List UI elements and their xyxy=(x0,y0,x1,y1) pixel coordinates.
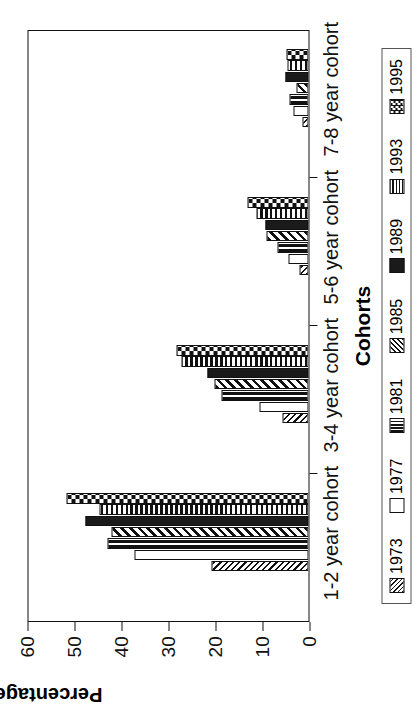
bar-1977-2 xyxy=(259,402,308,413)
legend-label: 1989 xyxy=(387,219,405,255)
legend-swatch-icon-1973 xyxy=(389,578,404,593)
bar-1981-3 xyxy=(277,242,308,253)
y-axis-tick xyxy=(262,622,263,631)
bar-1993-4 xyxy=(287,60,308,71)
bar-1985-4 xyxy=(296,83,308,94)
legend: 1973197719811985198919931995 xyxy=(381,48,411,604)
category-label-3: 5-6 year cohort xyxy=(319,170,342,305)
bar-1995-1 xyxy=(66,493,308,504)
bar-1973-4 xyxy=(302,117,308,128)
legend-item-1977[interactable]: 1977 xyxy=(387,459,405,514)
bar-1973-3 xyxy=(299,265,308,276)
bar-1993-1 xyxy=(99,504,308,515)
bar-1989-4 xyxy=(285,72,308,83)
y-axis-tick-label: 30 xyxy=(157,636,179,658)
bar-1989-2 xyxy=(207,368,308,379)
y-axis-title: Percentage xyxy=(0,683,168,706)
y-axis-tick-label: 40 xyxy=(110,636,132,658)
legend-swatch-icon-1985 xyxy=(389,338,404,353)
bar-1985-3 xyxy=(266,231,308,242)
legend-swatch-icon-1981 xyxy=(389,418,404,433)
y-axis-tick xyxy=(27,622,28,631)
y-axis-tick xyxy=(215,622,216,631)
bar-1989-3 xyxy=(265,220,308,231)
bar-1977-4 xyxy=(293,106,308,117)
y-axis-tick-label: 0 xyxy=(298,636,320,647)
bar-1993-3 xyxy=(256,208,308,219)
plot-area xyxy=(27,30,309,622)
legend-label: 1993 xyxy=(387,139,405,175)
legend-label: 1977 xyxy=(387,459,405,495)
legend-item-1995[interactable]: 1995 xyxy=(387,59,405,114)
y-axis-tick xyxy=(121,622,122,631)
bar-1989-1 xyxy=(85,516,308,527)
category-separator xyxy=(309,177,317,178)
category-label-1: 1-2 year cohort xyxy=(319,466,342,601)
legend-swatch-icon-1989 xyxy=(389,258,404,273)
legend-label: 1995 xyxy=(387,59,405,95)
bar-1973-2 xyxy=(282,413,308,424)
bar-1995-4 xyxy=(286,49,308,60)
category-axis: 1-2 year cohort3-4 year cohort5-6 year c… xyxy=(309,30,355,622)
bar-1977-3 xyxy=(288,254,308,265)
legend-item-1989[interactable]: 1989 xyxy=(387,219,405,274)
bars-layer xyxy=(28,31,308,621)
bar-1995-3 xyxy=(247,197,308,208)
bar-1981-4 xyxy=(289,94,308,105)
bar-1985-2 xyxy=(214,379,308,390)
category-separator xyxy=(309,325,317,326)
legend-item-1973[interactable]: 1973 xyxy=(387,538,405,593)
x-axis-title: Cohorts xyxy=(350,30,374,622)
bar-1973-1 xyxy=(211,561,308,572)
category-label-2: 3-4 year cohort xyxy=(319,318,342,453)
bar-1981-2 xyxy=(221,390,308,401)
bar-1993-2 xyxy=(181,356,308,367)
legend-item-1985[interactable]: 1985 xyxy=(387,299,405,354)
bar-1985-1 xyxy=(111,527,308,538)
legend-item-1981[interactable]: 1981 xyxy=(387,379,405,434)
y-axis-tick xyxy=(309,622,310,631)
category-label-4: 7-8 year cohort xyxy=(319,22,342,157)
y-axis-tick xyxy=(168,622,169,631)
legend-label: 1981 xyxy=(387,379,405,415)
y-axis-tick-label: 10 xyxy=(251,636,273,658)
bar-1981-1 xyxy=(107,538,308,549)
bar-1995-2 xyxy=(176,345,308,356)
category-separator xyxy=(309,473,317,474)
y-axis-tick-label: 50 xyxy=(63,636,85,658)
legend-swatch-icon-1977 xyxy=(389,498,404,513)
legend-label: 1985 xyxy=(387,299,405,335)
legend-item-1993[interactable]: 1993 xyxy=(387,139,405,194)
y-axis-tick-label: 60 xyxy=(16,636,38,658)
y-axis-tick xyxy=(74,622,75,631)
legend-swatch-icon-1995 xyxy=(389,99,404,114)
y-axis-tick-label: 20 xyxy=(204,636,226,658)
legend-swatch-icon-1993 xyxy=(389,179,404,194)
bar-1977-1 xyxy=(134,550,308,561)
legend-label: 1973 xyxy=(387,538,405,574)
